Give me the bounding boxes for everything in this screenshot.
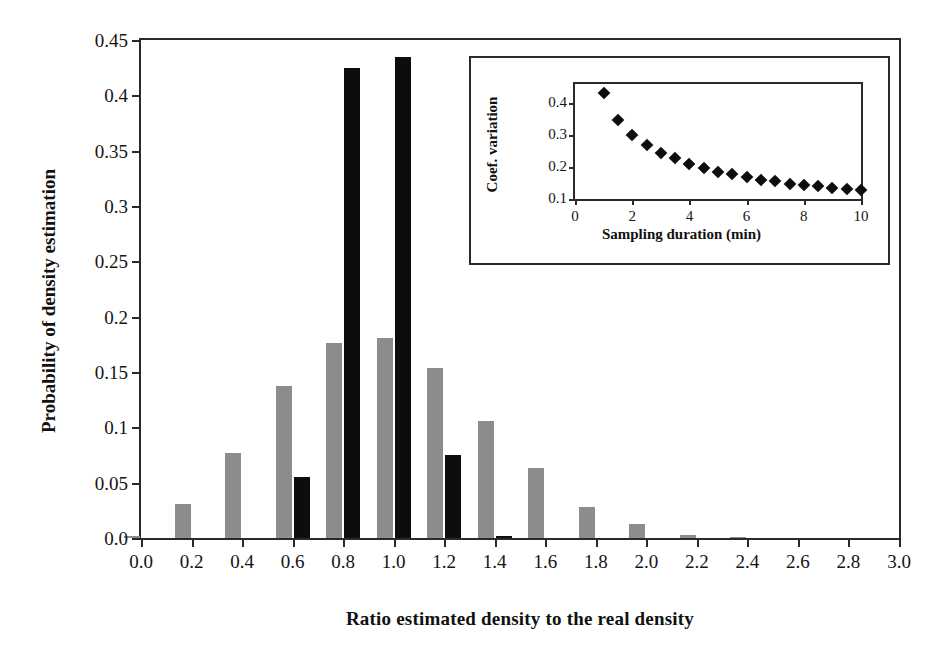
- y-tick-mark: [132, 261, 141, 263]
- x-tick-mark: [444, 538, 446, 547]
- diamond-marker: [669, 152, 682, 165]
- bar-gray: [225, 453, 241, 538]
- bar-gray: [680, 535, 696, 538]
- y-tick-mark: [132, 151, 141, 153]
- diamond-marker: [683, 157, 696, 170]
- x-tick-mark: [899, 538, 901, 547]
- x-tick-mark: [242, 538, 244, 547]
- y-tick-mark: [132, 95, 141, 97]
- inset-x-tick-label: 4: [669, 208, 709, 224]
- y-tick-label: 0.15: [68, 363, 128, 382]
- diamond-marker: [740, 170, 753, 183]
- diamond-marker: [626, 129, 639, 142]
- x-tick-mark: [596, 538, 598, 547]
- x-tick-mark: [192, 538, 194, 547]
- x-tick-mark: [747, 538, 749, 547]
- diamond-marker: [640, 138, 653, 151]
- bar-gray: [326, 343, 342, 538]
- bar-black: [445, 455, 461, 538]
- y-tick-mark: [132, 40, 141, 42]
- y-tick-mark: [132, 427, 141, 429]
- diamond-marker: [840, 182, 853, 195]
- diamond-marker: [612, 114, 625, 127]
- x-tick-mark: [141, 538, 143, 547]
- x-tick-mark: [798, 538, 800, 547]
- inset-x-tick-mark: [575, 199, 577, 205]
- x-tick-mark: [545, 538, 547, 547]
- x-tick-mark: [293, 538, 295, 547]
- diamond-marker: [597, 87, 610, 100]
- diamond-marker: [755, 173, 768, 186]
- bar-gray: [730, 537, 746, 539]
- y-tick-label: 0.3: [68, 197, 128, 216]
- y-tick-mark: [132, 538, 141, 540]
- inset-x-tick-mark: [861, 199, 863, 205]
- figure-canvas: 0.00.050.10.150.20.250.30.350.40.45 0.00…: [0, 0, 951, 651]
- diamond-marker: [797, 178, 810, 191]
- x-tick-mark: [697, 538, 699, 547]
- bar-black: [395, 57, 411, 538]
- inset-y-tick-label: 0.3: [521, 127, 567, 142]
- inset-x-tick-mark: [804, 199, 806, 205]
- y-tick-mark: [132, 206, 141, 208]
- inset-y-axis-title: Coef. variation: [484, 70, 501, 220]
- y-tick-label: 0.45: [68, 31, 128, 50]
- diamond-marker: [812, 180, 825, 193]
- bar-black: [496, 536, 512, 538]
- x-tick-label: 3.0: [869, 552, 929, 572]
- diamond-marker: [783, 177, 796, 190]
- x-tick-mark: [343, 538, 345, 547]
- x-tick-mark: [394, 538, 396, 547]
- diamond-marker: [769, 175, 782, 188]
- y-tick-label: 0.2: [68, 308, 128, 327]
- diamond-marker: [697, 162, 710, 175]
- inset-panel: Coef. variation 0.10.20.30.4 0246810 Sam…: [469, 56, 890, 265]
- y-tick-mark: [132, 483, 141, 485]
- diamond-marker: [826, 181, 839, 194]
- bar-black: [294, 477, 310, 538]
- inset-x-tick-label: 6: [727, 208, 767, 224]
- bar-gray: [427, 368, 443, 538]
- bar-gray: [629, 524, 645, 538]
- inset-y-tick-mark: [569, 103, 575, 105]
- y-tick-label: 0.25: [68, 252, 128, 271]
- bar-gray: [579, 507, 595, 538]
- diamond-marker: [712, 165, 725, 178]
- inset-x-tick-mark: [747, 199, 749, 205]
- bar-gray: [175, 504, 191, 538]
- x-tick-mark: [495, 538, 497, 547]
- inset-x-tick-mark: [632, 199, 634, 205]
- y-tick-label: 0.35: [68, 142, 128, 161]
- y-tick-label: 0.0: [68, 529, 128, 548]
- diamond-marker: [855, 183, 868, 196]
- inset-y-tick-mark: [569, 135, 575, 137]
- y-tick-label: 0.4: [68, 86, 128, 105]
- y-tick-mark: [132, 317, 141, 319]
- main-x-axis-title: Ratio estimated density to the real dens…: [139, 608, 901, 630]
- inset-x-tick-mark: [689, 199, 691, 205]
- bar-gray: [478, 421, 494, 538]
- inset-y-tick-label: 0.1: [521, 191, 567, 206]
- diamond-marker: [726, 168, 739, 181]
- inset-y-tick-mark: [569, 167, 575, 169]
- inset-x-axis-title: Sampling duration (min): [471, 226, 892, 243]
- bar-gray: [528, 468, 544, 538]
- x-tick-mark: [646, 538, 648, 547]
- inset-x-tick-label: 8: [784, 208, 824, 224]
- x-tick-mark: [848, 538, 850, 547]
- y-tick-mark: [132, 372, 141, 374]
- bar-black: [344, 68, 360, 538]
- inset-plot-area: [575, 84, 861, 199]
- main-y-axis-title: Probability of density estimation: [38, 71, 60, 531]
- bar-gray: [276, 386, 292, 538]
- inset-x-tick-label: 10: [841, 208, 881, 224]
- inset-y-tick-label: 0.2: [521, 159, 567, 174]
- diamond-marker: [654, 146, 667, 159]
- y-tick-label: 0.1: [68, 418, 128, 437]
- inset-x-tick-label: 2: [612, 208, 652, 224]
- inset-y-tick-label: 0.4: [521, 95, 567, 110]
- inset-plot-frame: 0.10.20.30.4 0246810: [573, 82, 863, 201]
- inset-x-tick-label: 0: [555, 208, 595, 224]
- y-tick-label: 0.05: [68, 474, 128, 493]
- bar-gray: [377, 338, 393, 538]
